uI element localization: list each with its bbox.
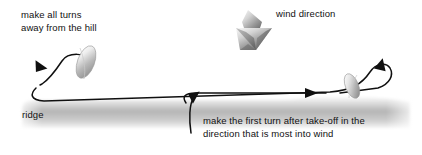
label-turns-away-line1: make all turns bbox=[21, 9, 82, 20]
label-ridge: ridge bbox=[22, 109, 44, 122]
ridge-takeoff-diagram: make all turnsaway from the hill wind di… bbox=[0, 0, 422, 155]
label-first-turn-line1: make the first turn after take-off in th… bbox=[203, 115, 365, 126]
wind-direction-arrow-icon bbox=[236, 10, 272, 50]
flight-arrowhead-left bbox=[32, 57, 48, 73]
label-wind-direction: wind direction bbox=[276, 8, 336, 21]
glider-left-icon bbox=[72, 43, 100, 81]
label-first-turn-line2: direction that is most into wind bbox=[203, 128, 333, 139]
label-turns-away-line2: away from the hill bbox=[21, 22, 97, 33]
label-make-first-turn: make the first turn after take-off in th… bbox=[203, 115, 365, 140]
label-make-all-turns-away: make all turnsaway from the hill bbox=[21, 9, 97, 34]
